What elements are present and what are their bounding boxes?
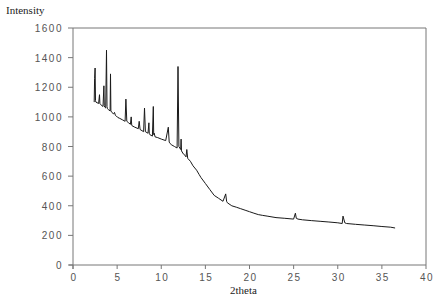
chart-axes (69, 28, 426, 269)
x-tick-label: 30 (332, 272, 346, 283)
x-tick-label: 0 (70, 272, 77, 283)
x-tick-label: 40 (420, 272, 434, 283)
y-tick-label: 200 (42, 230, 63, 241)
x-tick-label: 20 (243, 272, 257, 283)
x-tick-label: 15 (199, 272, 213, 283)
x-tick-label: 10 (155, 272, 169, 283)
data-line (94, 50, 395, 228)
x-tick-label: 35 (376, 272, 390, 283)
y-tick-label: 1000 (35, 112, 63, 123)
y-tick-label: 0 (56, 260, 63, 271)
x-tick-label: 5 (115, 272, 122, 283)
x-tick-label: 25 (288, 272, 302, 283)
xrd-chart: 0200400600800100012001400160005101520253… (0, 0, 443, 307)
y-tick-label: 1600 (35, 23, 63, 34)
y-tick-label: 400 (42, 201, 63, 212)
y-tick-label: 800 (42, 142, 63, 153)
y-tick-label: 1400 (35, 53, 63, 64)
y-tick-label: 600 (42, 171, 63, 182)
y-tick-label: 1200 (35, 82, 63, 93)
chart-ticks: 0200400600800100012001400160005101520253… (35, 23, 434, 283)
